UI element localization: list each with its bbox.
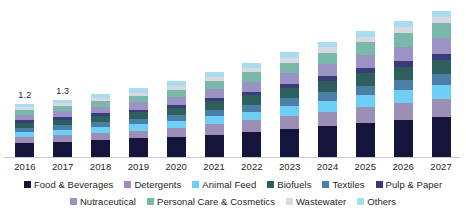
bar-slot[interactable] — [82, 0, 120, 157]
bar-segment[interactable] — [432, 38, 451, 53]
stacked-bar[interactable] — [129, 88, 148, 157]
bar-segment[interactable] — [167, 128, 186, 137]
bar-segment[interactable] — [432, 85, 451, 99]
bar-slot[interactable] — [384, 0, 422, 157]
bar-segment[interactable] — [356, 86, 375, 96]
bar-segment[interactable] — [242, 112, 261, 121]
bar-segment[interactable] — [394, 120, 413, 157]
bar-segment[interactable] — [356, 73, 375, 85]
stacked-bar[interactable] — [394, 21, 413, 157]
bar-slot[interactable] — [157, 0, 195, 157]
bar-segment[interactable] — [318, 64, 337, 76]
bar-segment[interactable] — [167, 97, 186, 105]
bar-segment[interactable] — [318, 92, 337, 101]
bar-segment[interactable] — [318, 53, 337, 64]
bar-segment[interactable] — [205, 101, 224, 109]
bar-segment[interactable] — [280, 129, 299, 157]
legend-item[interactable]: Detergents — [124, 179, 181, 190]
stacked-bar[interactable] — [15, 104, 34, 157]
bar-segment[interactable] — [242, 132, 261, 157]
bar-slot[interactable] — [233, 0, 271, 157]
bar-segment[interactable] — [394, 103, 413, 120]
bar-segment[interactable] — [167, 90, 186, 97]
bar-segment[interactable] — [167, 108, 186, 116]
bar-segment[interactable] — [280, 116, 299, 129]
bar-segment[interactable] — [318, 81, 337, 92]
bar-segment[interactable] — [318, 126, 337, 157]
bar-segment[interactable] — [129, 112, 148, 119]
bar-segment[interactable] — [280, 98, 299, 106]
bar-segment[interactable] — [205, 81, 224, 89]
legend-item[interactable]: Pulp & Paper — [376, 179, 443, 190]
bar-segment[interactable] — [167, 137, 186, 157]
bar-segment[interactable] — [167, 121, 186, 128]
stacked-bar[interactable] — [167, 81, 186, 157]
bar-segment[interactable] — [318, 101, 337, 112]
bar-segment[interactable] — [242, 82, 261, 92]
bar-slot[interactable] — [346, 0, 384, 157]
bar-segment[interactable] — [15, 143, 34, 157]
bar-segment[interactable] — [53, 135, 72, 142]
bar-segment[interactable] — [394, 33, 413, 47]
stacked-bar[interactable] — [91, 94, 110, 157]
bar-segment[interactable] — [205, 124, 224, 134]
stacked-bar[interactable] — [242, 63, 261, 157]
bar-segment[interactable] — [91, 133, 110, 141]
bar-segment[interactable] — [432, 74, 451, 85]
bar-segment[interactable] — [91, 140, 110, 157]
legend-item[interactable]: Nutraceutical — [70, 196, 136, 207]
bar-slot[interactable]: 1.3 — [44, 0, 82, 157]
bar-segment[interactable] — [129, 138, 148, 157]
bar-segment[interactable] — [394, 47, 413, 62]
bar-segment[interactable] — [242, 95, 261, 104]
legend-item[interactable]: Wastewater — [286, 196, 346, 207]
bar-slot[interactable] — [271, 0, 309, 157]
legend-item[interactable]: Textiles — [322, 179, 364, 190]
bar-segment[interactable] — [129, 131, 148, 139]
bar-segment[interactable] — [53, 142, 72, 157]
bar-segment[interactable] — [91, 107, 110, 114]
bar-segment[interactable] — [432, 23, 451, 38]
bar-segment[interactable] — [205, 89, 224, 98]
stacked-bar[interactable] — [280, 52, 299, 157]
stacked-bar[interactable] — [205, 72, 224, 157]
bar-segment[interactable] — [242, 105, 261, 112]
bar-slot[interactable] — [309, 0, 347, 157]
bar-segment[interactable] — [129, 96, 148, 103]
bar-slot[interactable] — [195, 0, 233, 157]
bar-segment[interactable] — [129, 102, 148, 110]
bar-segment[interactable] — [432, 17, 451, 24]
bar-segment[interactable] — [356, 107, 375, 122]
bar-segment[interactable] — [205, 110, 224, 117]
bar-slot[interactable] — [119, 0, 157, 157]
bar-segment[interactable] — [432, 117, 451, 157]
bar-segment[interactable] — [205, 116, 224, 124]
bar-slot[interactable]: 1.2 — [6, 0, 44, 157]
bar-segment[interactable] — [394, 80, 413, 91]
bar-segment[interactable] — [356, 123, 375, 157]
bar-segment[interactable] — [432, 60, 451, 74]
bar-segment[interactable] — [280, 63, 299, 74]
bar-segment[interactable] — [356, 95, 375, 107]
legend-item[interactable]: Others — [357, 196, 396, 207]
bar-slot[interactable] — [422, 0, 460, 157]
legend-item[interactable]: Animal Feed — [192, 179, 256, 190]
bar-segment[interactable] — [318, 112, 337, 126]
stacked-bar[interactable] — [432, 11, 451, 157]
bar-segment[interactable] — [280, 106, 299, 116]
bar-segment[interactable] — [280, 88, 299, 98]
legend-item[interactable]: Biofuels — [267, 179, 311, 190]
legend-item[interactable]: Personal Care & Cosmetics — [147, 196, 275, 207]
bar-segment[interactable] — [280, 73, 299, 84]
bar-segment[interactable] — [242, 120, 261, 131]
bar-segment[interactable] — [394, 67, 413, 80]
stacked-bar[interactable] — [318, 42, 337, 158]
bar-segment[interactable] — [432, 99, 451, 117]
bar-segment[interactable] — [356, 55, 375, 68]
bar-segment[interactable] — [242, 72, 261, 81]
bar-segment[interactable] — [394, 90, 413, 103]
legend-item[interactable]: Food & Beverages — [24, 179, 114, 190]
bar-segment[interactable] — [205, 135, 224, 158]
bar-segment[interactable] — [356, 42, 375, 55]
stacked-bar[interactable] — [356, 31, 375, 157]
